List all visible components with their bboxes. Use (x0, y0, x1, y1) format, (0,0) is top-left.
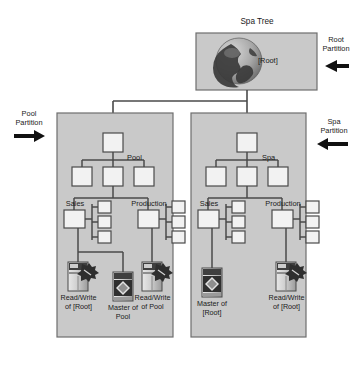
root-partition-arrow-icon (325, 60, 349, 72)
diagram-title: Spa Tree (215, 18, 299, 27)
tree-node (268, 167, 288, 186)
tree-node (98, 216, 111, 228)
tree-node (232, 216, 245, 228)
pool-partition-arrow-icon (14, 130, 45, 142)
tree-node (134, 167, 154, 186)
spa-tree-label: Spa (262, 154, 296, 163)
tree-node (237, 167, 257, 186)
tree-node (306, 216, 319, 228)
tree-node (306, 231, 319, 243)
spa-server-label-master-root: Master of [Root] (191, 300, 233, 317)
tree-node (306, 201, 319, 213)
spa-partition-arrow-icon (317, 138, 348, 150)
tree-node (232, 231, 245, 243)
pool-server-label-read-write-root: Read/Write of [Root] (58, 294, 99, 311)
tree-node (98, 231, 111, 243)
tree-node (103, 133, 123, 152)
tree-node (206, 167, 226, 186)
pool-branch-label-sales: Sales (58, 200, 92, 209)
tree-node (103, 167, 123, 186)
tree-node (72, 167, 92, 186)
tree-node (232, 201, 245, 213)
tree-node (237, 133, 257, 152)
tree-node (172, 231, 185, 243)
tree-node (64, 210, 85, 228)
pool-branch-label-production: Production (125, 200, 173, 209)
spa-branch-label-sales: Sales (192, 200, 226, 209)
tree-node (172, 216, 185, 228)
spa-partition-callout: Spa Partition (314, 118, 354, 135)
pool-tree-label: Pool (127, 154, 161, 163)
server-master-root (202, 268, 222, 297)
tree-node (198, 210, 219, 228)
tree-node (138, 210, 159, 228)
spa-branch-label-production: Production (259, 200, 307, 209)
pool-partition-callout: Pool Partition (8, 110, 50, 127)
tree-node (272, 210, 293, 228)
tree-node (98, 201, 111, 213)
root-node-label: [Root] (258, 57, 298, 66)
server-master-pool (113, 272, 133, 301)
spa-server-label-read-write-root: Read/Write of [Root] (266, 294, 307, 311)
tree-node (172, 201, 185, 213)
root-partition-callout: Root Partition (316, 36, 356, 53)
diagram-canvas: Spa Tree [Root] Root Partition Pool Part… (0, 0, 357, 365)
pool-server-label-read-write-pool: Read/Write of Pool (132, 294, 173, 311)
